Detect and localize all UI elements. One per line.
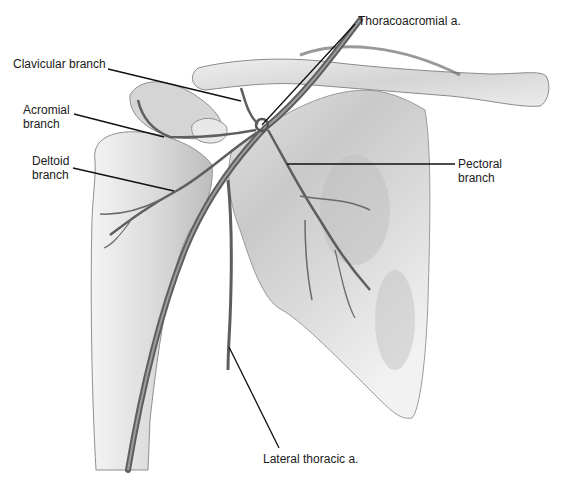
humerus — [91, 132, 212, 470]
label-pectoral: Pectoral branch — [458, 157, 502, 185]
label-acromial: Acromial branch — [23, 103, 70, 131]
label-lateral_thoracic: Lateral thoracic a. — [263, 452, 358, 466]
coracoid-process — [192, 118, 227, 143]
shoulder-artery-illustration — [0, 0, 565, 483]
scapula — [229, 90, 430, 418]
clavicular-branch-vessel — [241, 88, 258, 124]
label-deltoid: Deltoid branch — [32, 154, 69, 182]
label-clavicular: Clavicular branch — [13, 57, 106, 71]
label-thoracoacromial: Thoracoacromial a. — [358, 14, 461, 28]
leader-line-lateral_thoracic — [229, 347, 279, 448]
lateral-thoracic-artery — [228, 180, 231, 370]
